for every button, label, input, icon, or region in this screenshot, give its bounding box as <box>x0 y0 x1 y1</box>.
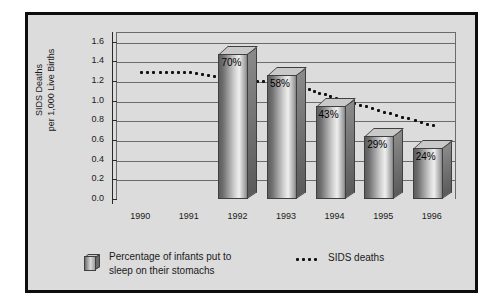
y-axis-title-line1: SIDS Deaths <box>33 25 45 155</box>
y-axis-tick-label: 0.8 <box>76 115 104 124</box>
y-axis-tick <box>112 61 117 62</box>
x-axis-tick-label: 1990 <box>117 211 163 221</box>
x-axis-tick-label: 1995 <box>360 211 406 221</box>
y-axis-tick-label: 0.2 <box>76 174 104 183</box>
bar-side-face <box>393 129 403 199</box>
x-axis-tick-label: 1992 <box>214 211 260 221</box>
y-axis-tick <box>112 160 117 161</box>
legend-bars-label-line1: Percentage of infants put to <box>109 250 284 264</box>
y-axis-tick <box>112 120 117 121</box>
legend-line-label: SIDS deaths <box>328 252 384 263</box>
bar-value-label: 58% <box>270 78 290 89</box>
y-axis-tick <box>112 81 117 82</box>
bar-front-face <box>267 75 297 199</box>
bar-side-face <box>345 99 355 199</box>
y-axis-title-line2: per 1,000 Live Births <box>45 25 57 155</box>
x-axis-tick-label: 1994 <box>312 211 358 221</box>
y-axis-tick-label: 0.6 <box>76 135 104 144</box>
x-axis-tick-label: 1996 <box>409 211 455 221</box>
x-axis-tick-label: 1993 <box>263 211 309 221</box>
legend-dot <box>314 258 317 261</box>
y-axis-tick <box>112 199 117 200</box>
legend-dot <box>302 258 305 261</box>
bar-1994: 43% <box>316 106 346 199</box>
y-axis-title: SIDS Deaths per 1,000 Live Births <box>33 25 59 155</box>
y-axis-tick-label: 1.4 <box>76 56 104 65</box>
chart-legend: Percentage of infants put to sleep on th… <box>84 250 454 286</box>
chart-figure: 0.00.20.40.60.81.01.21.41.6 SIDS Deaths … <box>25 12 478 293</box>
y-axis-tick-label: 0.0 <box>76 194 104 203</box>
bar-value-label: 43% <box>319 109 339 120</box>
y-axis-line <box>112 32 113 204</box>
legend-dotted-line-icon <box>296 258 320 262</box>
bar-value-label: 70% <box>221 57 241 68</box>
legend-dot <box>296 258 299 261</box>
bar-1995: 29% <box>364 136 394 199</box>
gridline <box>117 43 455 44</box>
legend-bar-swatch-icon <box>84 254 100 271</box>
y-axis-tick-label: 0.4 <box>76 155 104 164</box>
legend-bars-label: Percentage of infants put to sleep on th… <box>109 250 284 278</box>
y-axis-tick-label: 1.6 <box>76 37 104 46</box>
bar-1993: 58% <box>267 75 297 199</box>
bar-1996: 24% <box>413 148 443 199</box>
x-axis-tick-label: 1991 <box>166 211 212 221</box>
y-axis-tick <box>112 140 117 141</box>
bar-front-face <box>218 54 248 199</box>
bar-side-face <box>247 47 257 199</box>
bar-side-face <box>442 141 452 199</box>
bar-value-label: 29% <box>367 139 387 150</box>
bar-value-label: 24% <box>416 151 436 162</box>
y-axis-tick <box>112 101 117 102</box>
y-axis-tick <box>112 179 117 180</box>
gridline <box>117 62 455 63</box>
legend-bars-label-line2: sleep on their stomachs <box>109 264 284 278</box>
y-axis-tick-label: 1.0 <box>76 96 104 105</box>
y-axis-tick <box>112 42 117 43</box>
y-axis-tick-labels: 0.00.20.40.60.81.01.21.41.6 <box>72 15 104 215</box>
bar-1992: 70% <box>218 54 248 199</box>
bar-side-face <box>296 68 306 199</box>
legend-dot <box>308 258 311 261</box>
y-axis-tick-label: 1.2 <box>76 76 104 85</box>
x-axis-tick-labels: 1990199119921993199419951996 <box>116 211 456 225</box>
